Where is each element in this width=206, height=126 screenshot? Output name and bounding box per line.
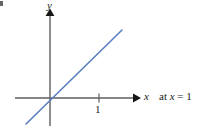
figure-container: y x 1 at x = 1 xyxy=(0,0,206,126)
annotation-prefix: at xyxy=(159,90,170,102)
x-axis-label: x xyxy=(144,91,149,102)
annotation-equals: = xyxy=(175,90,187,102)
x-tick-label-1: 1 xyxy=(95,104,101,115)
y-axis-label: y xyxy=(47,0,52,11)
data-line-y-equals-x xyxy=(26,30,122,124)
annotation-value: 1 xyxy=(186,90,192,102)
x-axis-arrowhead xyxy=(133,94,141,103)
coordinate-plot xyxy=(0,0,206,126)
annotation-at-x-equals-1: at x = 1 xyxy=(159,91,192,102)
